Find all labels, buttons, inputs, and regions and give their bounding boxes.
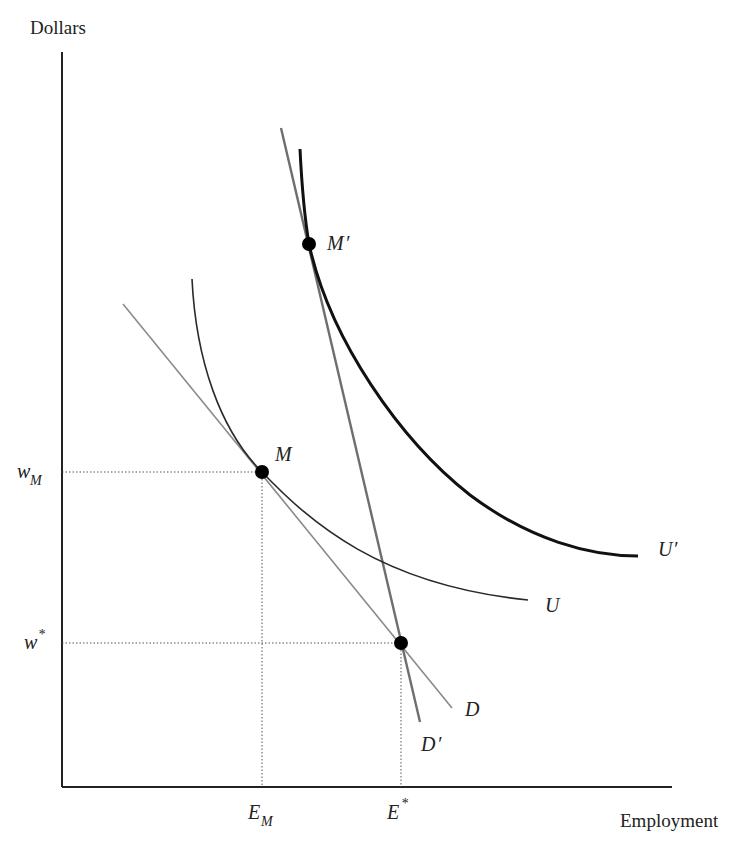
svg-text:′: ′ (437, 733, 442, 755)
svg-text:*: * (401, 796, 408, 811)
indifference-curve-U-prime (300, 149, 638, 556)
svg-text:w: w (24, 631, 38, 653)
svg-text:U: U (658, 538, 674, 560)
svg-text:′: ′ (345, 232, 350, 254)
svg-text:′: ′ (673, 538, 678, 560)
point-M-prime (302, 237, 316, 251)
svg-text:E: E (386, 801, 399, 823)
label-U-prime: U ′ (658, 538, 678, 560)
x-axis-label: Employment (620, 810, 719, 831)
svg-text:D: D (464, 698, 480, 720)
y-tick-wM: w M (17, 460, 43, 488)
x-tick-Estar: E * (386, 796, 408, 823)
y-axis-label: Dollars (30, 17, 86, 38)
indifference-curve-U (192, 279, 528, 600)
label-U: U (545, 594, 561, 616)
x-tick-EM: E M (247, 801, 274, 829)
svg-text:M: M (274, 443, 293, 465)
point-M (255, 465, 269, 479)
guide-lines (62, 472, 401, 787)
svg-text:M: M (260, 814, 274, 829)
label-D-prime: D ′ (420, 733, 442, 755)
svg-text:M: M (29, 473, 43, 488)
y-tick-wstar: w * (24, 627, 45, 653)
svg-text:w: w (17, 460, 31, 482)
label-M-prime: M ′ (326, 232, 350, 254)
svg-text:E: E (247, 801, 260, 823)
diagram-canvas: Dollars Employment w M w * E M E * M M ′… (0, 0, 730, 846)
point-equilibrium (394, 636, 408, 650)
svg-text:*: * (38, 627, 45, 642)
svg-text:U: U (545, 594, 561, 616)
svg-text:M: M (326, 232, 345, 254)
label-D: D (464, 698, 480, 720)
label-M: M (274, 443, 293, 465)
svg-text:D: D (420, 733, 436, 755)
